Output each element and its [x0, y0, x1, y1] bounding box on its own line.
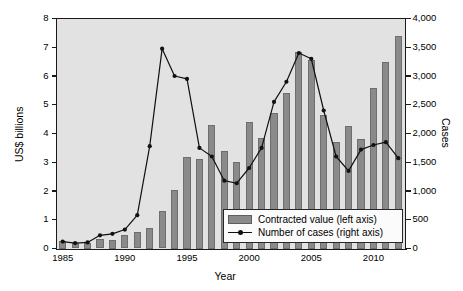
x-axis-tick-label: 2005	[289, 253, 333, 263]
y-axis-right-tick-label: 500	[413, 214, 449, 224]
case-marker	[160, 47, 164, 51]
y-axis-left-tick	[52, 75, 57, 76]
y-axis-right-tick	[406, 133, 411, 134]
y-axis-right-tick-label: 3,000	[413, 71, 449, 81]
case-marker	[148, 144, 152, 148]
legend-bar-swatch-icon	[228, 215, 252, 224]
y-axis-left-tick	[52, 18, 57, 19]
y-axis-right-tick	[406, 248, 411, 249]
y-axis-right-title: Cases	[440, 118, 452, 148]
x-axis-tick-label: 2010	[351, 253, 395, 263]
y-axis-left-tick-label: 7	[23, 42, 49, 52]
chart-container: 01234567805001,0001,5002,0002,5003,0003,…	[0, 0, 463, 291]
case-marker	[197, 146, 201, 150]
y-axis-right-tick-label: 1,500	[413, 157, 449, 167]
case-marker	[359, 148, 363, 152]
x-axis-tick-label: 2000	[227, 253, 271, 263]
y-axis-right-tick-label: 3,500	[413, 42, 449, 52]
y-axis-left-tick-label: 8	[23, 13, 49, 23]
y-axis-left-tick	[52, 190, 57, 191]
case-marker	[110, 232, 114, 236]
legend-label-contracted-value: Contracted value (left axis)	[258, 214, 377, 225]
case-marker	[85, 240, 89, 244]
y-axis-left-tick-label: 5	[23, 99, 49, 109]
case-marker	[284, 80, 288, 84]
y-axis-right-tick	[406, 47, 411, 48]
y-axis-left-tick	[52, 219, 57, 220]
y-axis-left-title: US$ billions	[13, 106, 25, 161]
x-axis-tick-label: 1985	[41, 253, 85, 263]
legend-label-number-of-cases: Number of cases (right axis)	[258, 227, 383, 238]
case-marker	[73, 241, 77, 245]
case-marker	[222, 179, 226, 183]
y-axis-left-tick	[52, 104, 57, 105]
y-axis-right-tick	[406, 162, 411, 163]
case-marker	[297, 51, 301, 55]
case-marker	[235, 181, 239, 185]
y-axis-right-tick	[406, 75, 411, 76]
case-marker	[98, 233, 102, 237]
case-marker	[371, 143, 375, 147]
y-axis-right-tick-label: 0	[413, 243, 449, 253]
case-marker	[272, 100, 276, 104]
y-axis-right-tick-label: 4,000	[413, 13, 449, 23]
case-marker	[396, 156, 400, 160]
case-marker	[185, 77, 189, 81]
y-axis-right-tick-label: 1,000	[413, 186, 449, 196]
case-marker	[135, 213, 139, 217]
y-axis-right-tick	[406, 18, 411, 19]
case-marker	[172, 74, 176, 78]
case-marker	[309, 57, 313, 61]
y-axis-left-tick	[52, 133, 57, 134]
case-marker	[259, 146, 263, 150]
case-marker	[346, 169, 350, 173]
chart-legend: Contracted value (left axis) Number of c…	[223, 209, 403, 243]
y-axis-left-tick	[52, 47, 57, 48]
case-marker	[247, 166, 251, 170]
y-axis-left-tick-label: 4	[23, 128, 49, 138]
y-axis-left-tick	[52, 162, 57, 163]
x-axis-tick-label: 1995	[165, 253, 209, 263]
y-axis-right-tick	[406, 190, 411, 191]
legend-item-contracted-value: Contracted value (left axis)	[228, 213, 397, 226]
y-axis-left-tick-label: 6	[23, 71, 49, 81]
y-axis-left-tick-label: 1	[23, 214, 49, 224]
y-axis-right-tick	[406, 219, 411, 220]
y-axis-left-tick-label: 2	[23, 186, 49, 196]
case-marker	[210, 154, 214, 158]
case-marker	[61, 240, 65, 244]
y-axis-left-tick-label: 3	[23, 157, 49, 167]
case-marker	[384, 140, 388, 144]
y-axis-right-tick-label: 2,500	[413, 99, 449, 109]
case-marker	[123, 227, 127, 231]
x-axis-title: Year	[215, 270, 236, 282]
y-axis-left-tick-label: 0	[23, 243, 49, 253]
y-axis-right-tick	[406, 104, 411, 105]
line-series-number-of-cases	[0, 0, 463, 291]
case-marker	[334, 154, 338, 158]
legend-item-number-of-cases: Number of cases (right axis)	[228, 226, 397, 239]
y-axis-left-tick	[52, 248, 57, 249]
x-axis-tick-label: 1990	[103, 253, 147, 263]
legend-line-marker-icon	[228, 228, 252, 237]
case-marker	[322, 108, 326, 112]
